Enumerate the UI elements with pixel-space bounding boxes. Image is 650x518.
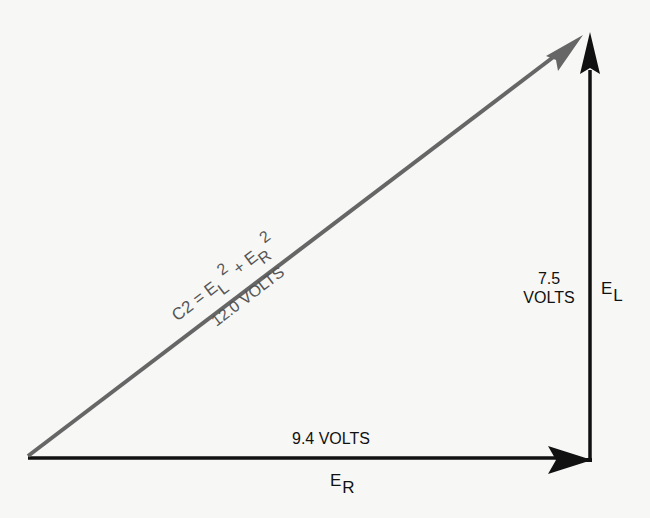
hypotenuse-vector — [28, 35, 583, 456]
arrowhead-diagonal-icon — [546, 35, 583, 71]
arrowhead-up-icon — [580, 32, 600, 74]
el-name-label: EL — [601, 279, 623, 305]
el-value-line2: VOLTS — [523, 289, 574, 306]
er-value-label: 9.4 VOLTS — [292, 430, 370, 447]
diagram-svg: C2 = EL2 + ER2 12.0 VOLTS 7.5 VOLTS EL 9… — [0, 0, 650, 518]
horizontal-vector-er — [28, 446, 592, 474]
er-name-label: ER — [330, 471, 355, 497]
hypotenuse-labels: C2 = EL2 + ER2 12.0 VOLTS — [163, 227, 296, 346]
vector-diagram: C2 = EL2 + ER2 12.0 VOLTS 7.5 VOLTS EL 9… — [0, 0, 650, 518]
vertical-vector-el — [580, 32, 600, 460]
el-value-line1: 7.5 — [538, 270, 560, 287]
